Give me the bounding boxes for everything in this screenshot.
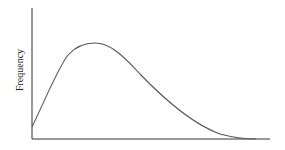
- y-axis-label: Frequency: [2, 20, 36, 120]
- chart-plot: [0, 0, 285, 150]
- distribution-curve: [32, 43, 256, 139]
- skewed-distribution-chart: Frequency: [0, 0, 285, 150]
- y-axis-label-text: Frequency: [14, 49, 25, 91]
